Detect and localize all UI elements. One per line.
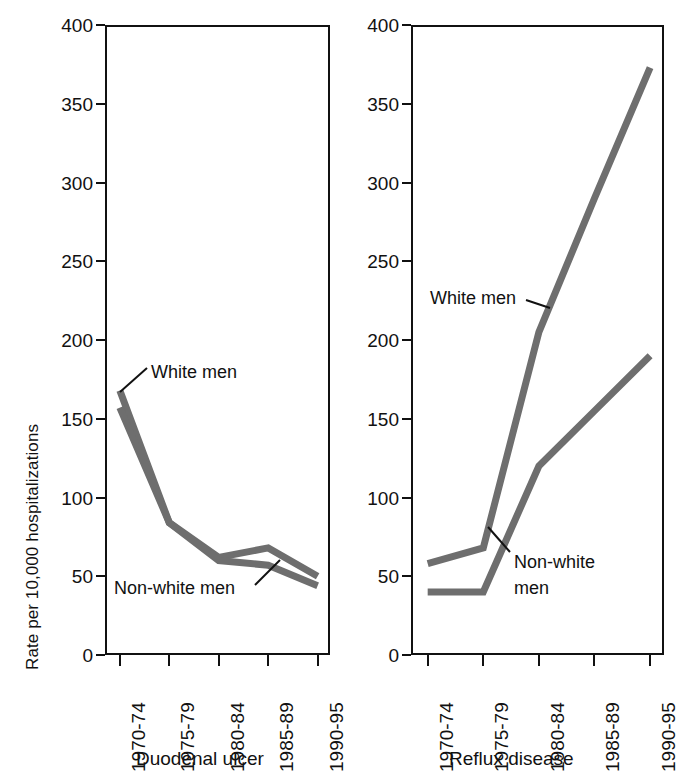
x-tick-mark: [168, 655, 170, 666]
annotation-non-white-reflux-line2: men: [514, 578, 549, 599]
annotation-non-white-men-duodenal: Non-white men: [114, 578, 235, 599]
x-tick-label: 1990-95: [326, 702, 348, 772]
leader-white-men-duodenal: [120, 368, 147, 392]
x-tick-mark: [649, 655, 651, 666]
x-tick-mark: [267, 655, 269, 666]
x-tick-label: 1985-89: [276, 702, 298, 772]
panel-reflux-disease: 050100150200250300350400 1970-741975-791…: [366, 0, 646, 778]
annotation-white-men-duodenal: White men: [151, 362, 237, 383]
leader-white-men-reflux: [526, 300, 550, 308]
x-tick-mark: [119, 655, 121, 666]
x-tick-label: 1990-95: [658, 702, 680, 772]
panel-title-duodenal-ulcer: Duodenal ulcer: [136, 748, 264, 770]
series-layer-duodenal-ulcer: [0, 0, 366, 778]
annotation-non-white-reflux-line1: Non-white: [514, 552, 595, 573]
panel-title-reflux-disease: Reflux disease: [449, 748, 574, 770]
x-tick-mark: [593, 655, 595, 666]
panel-duodenal-ulcer: Rate per 10,000 hospitalizations 0501001…: [0, 0, 366, 778]
x-tick-mark: [317, 655, 319, 666]
x-tick-label: 1985-89: [602, 702, 624, 772]
x-tick-mark: [538, 655, 540, 666]
annotation-white-men-reflux: White men: [430, 288, 516, 309]
x-tick-mark: [427, 655, 429, 666]
series-line-white-men: [428, 68, 650, 564]
x-tick-mark: [218, 655, 220, 666]
series-layer-reflux-disease: [366, 0, 646, 778]
x-tick-mark: [482, 655, 484, 666]
